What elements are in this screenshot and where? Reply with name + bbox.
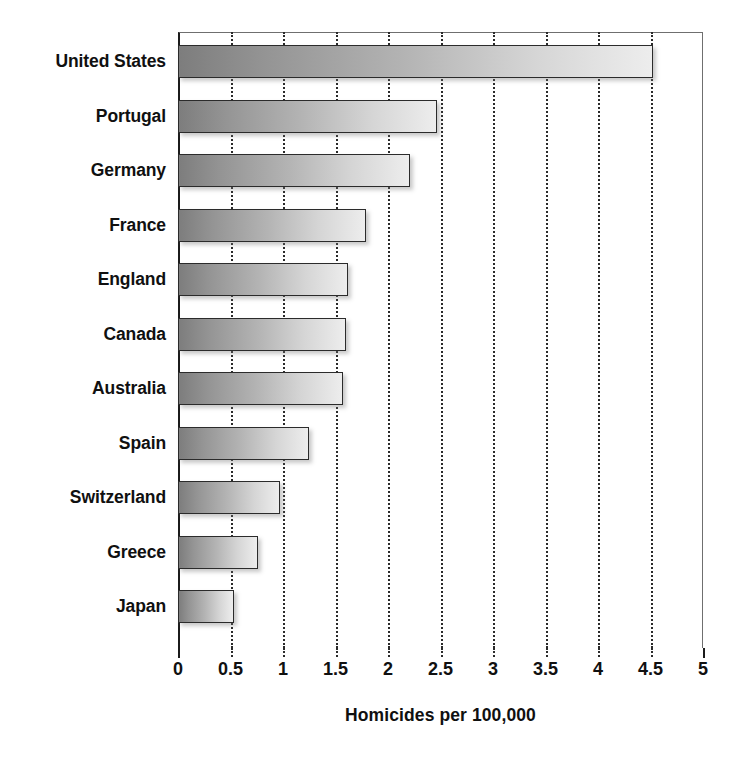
category-label-japan: Japan — [0, 590, 166, 623]
x-tick-label-0: 0 — [148, 659, 208, 680]
bar-row — [178, 100, 437, 133]
tickmark-1 — [283, 648, 285, 657]
gridline-4.5 — [651, 32, 653, 648]
bar-australia — [178, 372, 343, 405]
homicide-rate-bar-chart: United StatesPortugalGermanyFranceEnglan… — [0, 0, 752, 761]
category-label-england: England — [0, 263, 166, 296]
tickmark-2.5 — [441, 648, 443, 657]
bar-row — [178, 590, 234, 623]
tickmark-3.5 — [546, 648, 548, 657]
gridline-2.5 — [441, 32, 443, 648]
tickmark-4.5 — [651, 648, 653, 657]
bar-france — [178, 209, 366, 242]
category-label-canada: Canada — [0, 318, 166, 351]
bar-row — [178, 536, 258, 569]
x-tick-label-4: 4 — [568, 659, 628, 680]
tickmark-0 — [178, 648, 180, 658]
x-tick-label-2: 2 — [358, 659, 418, 680]
category-label-germany: Germany — [0, 154, 166, 187]
tickmark-1.5 — [336, 648, 338, 657]
gridline-3 — [493, 32, 495, 648]
category-label-australia: Australia — [0, 372, 166, 405]
x-tick-label-3.5: 3.5 — [516, 659, 576, 680]
gridline-4 — [598, 32, 600, 648]
bar-row — [178, 45, 653, 78]
x-tick-label-5: 5 — [673, 659, 733, 680]
bar-row — [178, 154, 410, 187]
bar-switzerland — [178, 481, 280, 514]
gridline-3.5 — [546, 32, 548, 648]
bar-spain — [178, 427, 309, 460]
bar-row — [178, 481, 280, 514]
category-label-greece: Greece — [0, 536, 166, 569]
x-tick-label-2.5: 2.5 — [411, 659, 471, 680]
bar-germany — [178, 154, 410, 187]
category-label-switzerland: Switzerland — [0, 481, 166, 514]
category-label-portugal: Portugal — [0, 100, 166, 133]
bar-row — [178, 209, 366, 242]
bar-united-states — [178, 45, 653, 78]
bar-row — [178, 372, 343, 405]
bar-greece — [178, 536, 258, 569]
tickmark-0.5 — [231, 648, 233, 657]
x-axis-title: Homicides per 100,000 — [178, 705, 703, 726]
bar-row — [178, 263, 348, 296]
bar-canada — [178, 318, 346, 351]
x-tick-label-3: 3 — [463, 659, 523, 680]
tickmark-2 — [388, 648, 390, 657]
category-label-france: France — [0, 209, 166, 242]
bar-england — [178, 263, 348, 296]
bar-row — [178, 318, 346, 351]
bar-japan — [178, 590, 234, 623]
bar-portugal — [178, 100, 437, 133]
x-tick-label-1.5: 1.5 — [306, 659, 366, 680]
category-label-united-states: United States — [0, 45, 166, 78]
x-tick-label-0.5: 0.5 — [201, 659, 261, 680]
tickmark-4 — [598, 648, 600, 657]
category-label-spain: Spain — [0, 427, 166, 460]
tickmark-5 — [703, 648, 705, 658]
tickmark-3 — [493, 648, 495, 657]
x-tick-label-4.5: 4.5 — [621, 659, 681, 680]
x-tick-label-1: 1 — [253, 659, 313, 680]
bar-row — [178, 427, 309, 460]
